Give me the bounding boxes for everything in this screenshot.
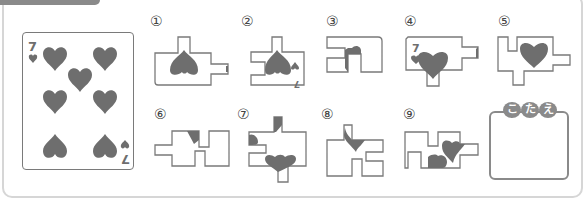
answer-title: こ た え: [503, 102, 557, 118]
svg-text:7: 7: [294, 79, 300, 89]
piece-4-rank: 7: [412, 42, 420, 55]
piece-3[interactable]: [327, 37, 382, 72]
answer-title-char: た: [521, 102, 539, 118]
answer-title-char: こ: [503, 102, 521, 118]
answer-title-char: え: [539, 102, 557, 118]
answer-box[interactable]: [489, 111, 569, 180]
puzzle-panel: 7 7 ① ② ③ ④ ⑤ ⑥ ⑦ ⑧ ⑨: [0, 0, 587, 202]
